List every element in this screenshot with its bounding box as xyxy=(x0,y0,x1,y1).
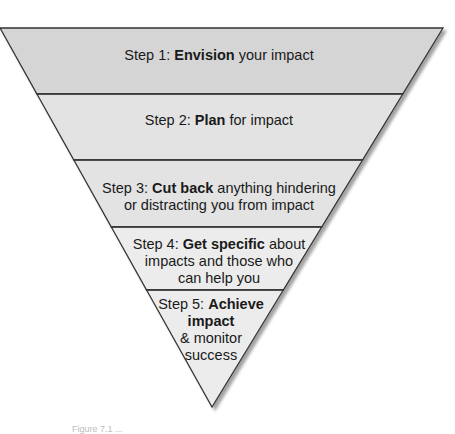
step-4-line-1: Step 4: Get specific about xyxy=(133,236,306,253)
step-1-label: Step 1: Envision your impact xyxy=(124,47,313,64)
step-keyword: Get specific xyxy=(183,236,265,252)
step-prefix: Step 2: xyxy=(145,112,195,128)
figure-caption: Figure 7.1 ... xyxy=(72,424,123,434)
step-keyword: impact xyxy=(188,313,235,329)
step-prefix: Step 1: xyxy=(124,47,174,63)
step-3-label: Step 3: Cut back anything hinderingor di… xyxy=(102,180,336,214)
step-4-line-3: can help you xyxy=(133,270,306,287)
step-4-label: Step 4: Get specific aboutimpacts and th… xyxy=(133,236,306,287)
step-prefix: Step 3: xyxy=(102,180,152,196)
step-5-label: Step 5: Achieveimpact& monitorsuccess xyxy=(158,296,264,364)
step-keyword: Plan xyxy=(195,112,226,128)
step-description: for impact xyxy=(225,112,293,128)
step-description: can help you xyxy=(178,270,260,286)
step-description: impacts and those who xyxy=(145,253,293,269)
step-5-line-3: & monitor xyxy=(158,330,264,347)
step-5-line-2: impact xyxy=(158,313,264,330)
step-keyword: Envision xyxy=(174,47,234,63)
step-5-line-4: success xyxy=(158,347,264,364)
step-prefix: Step 5: xyxy=(158,296,208,312)
step-description: anything hindering xyxy=(213,180,336,196)
step-2-line-1: Step 2: Plan for impact xyxy=(145,112,293,129)
step-4-line-2: impacts and those who xyxy=(133,253,306,270)
step-description: your impact xyxy=(235,47,314,63)
step-keyword: Cut back xyxy=(152,180,213,196)
step-3-line-1: Step 3: Cut back anything hindering xyxy=(102,180,336,197)
step-2-label: Step 2: Plan for impact xyxy=(145,112,293,129)
step-prefix: Step 4: xyxy=(133,236,183,252)
funnel-diagram xyxy=(0,0,455,434)
step-3-line-2: or distracting you from impact xyxy=(102,197,336,214)
step-1-line-1: Step 1: Envision your impact xyxy=(124,47,313,64)
step-description: success xyxy=(185,347,237,363)
step-5-line-1: Step 5: Achieve xyxy=(158,296,264,313)
step-description: or distracting you from impact xyxy=(124,197,314,213)
step-keyword: Achieve xyxy=(208,296,264,312)
step-description: & monitor xyxy=(180,330,242,346)
step-description: about xyxy=(265,236,305,252)
